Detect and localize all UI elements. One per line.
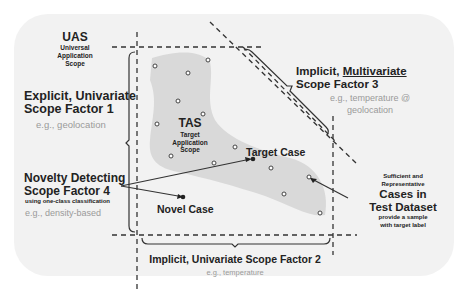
factor3-prefix: Implicit, — [296, 65, 343, 77]
factor3-underlined: Multivariate — [343, 65, 407, 77]
uas-description: Universal Application Scope — [45, 44, 105, 68]
factor2-label: Implicit, Univariate Scope Factor 2 — [130, 253, 340, 265]
uas-line2: Application — [45, 52, 105, 60]
uas-line3: Scope — [45, 60, 105, 68]
factor4-note: using one-class classification — [25, 198, 110, 204]
factor3-example2: geolocation — [322, 104, 418, 116]
novel-case-label: Novel Case — [157, 203, 214, 215]
test-dataset-title2: Test Dataset — [350, 201, 456, 214]
test-dataset-title: Cases in Test Dataset — [350, 188, 456, 214]
tas-line3: Scope — [160, 146, 220, 154]
tas-description: Target Application Scope — [160, 131, 220, 154]
test-dataset-title1: Cases in — [350, 188, 456, 201]
uas-line1: Universal — [45, 44, 105, 52]
factor3-example: e.g., temperature @ geolocation — [322, 92, 418, 116]
factor1-label: Explicit, Univariate Scope Factor 1 — [24, 90, 136, 116]
test-dataset-pre: Sufficient and Representative — [355, 173, 451, 188]
test-dataset-pre1: Sufficient and — [355, 173, 451, 181]
factor2-example: e.g., temperature — [180, 268, 290, 277]
factor4-line2: Scope Factor 4 — [24, 185, 125, 198]
test-dataset-post: provide a sample with target label — [355, 214, 451, 229]
factor1-line2: Scope Factor 1 — [24, 103, 136, 116]
tas-line1: Target — [160, 131, 220, 139]
uas-title: UAS — [45, 30, 105, 44]
factor4-label: Novelty Detecting Scope Factor 4 — [24, 172, 125, 198]
target-case-label: Target Case — [246, 146, 305, 158]
factor3-label: Implicit, Multivariate Scope Factor 3 — [296, 65, 407, 91]
factor3-example1: e.g., temperature @ — [322, 92, 418, 104]
tas-title: TAS — [164, 116, 216, 130]
test-dataset-pre2: Representative — [355, 181, 451, 189]
tas-line2: Application — [160, 139, 220, 147]
test-dataset-post2: with target label — [355, 222, 451, 230]
factor1-example: e.g., geolocation — [36, 119, 106, 130]
factor4-example: e.g., density-based — [25, 208, 101, 218]
factor3-line2: Scope Factor 3 — [296, 78, 407, 91]
test-dataset-post1: provide a sample — [355, 214, 451, 222]
